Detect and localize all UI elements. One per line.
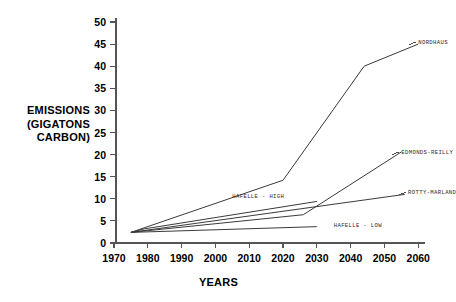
series-label-nordhaus: NORDHAUS: [418, 39, 448, 46]
series-label-hafelle-high: HAFELLE - HIGH: [232, 193, 284, 200]
y-tick-label: 10: [82, 193, 106, 205]
y-tick-label: 15: [82, 171, 106, 183]
y-tick-label: 5: [82, 215, 106, 227]
y-tick-label: 30: [82, 104, 106, 116]
x-axis-title: YEARS: [0, 276, 437, 288]
chart-label-leaders: [392, 42, 416, 195]
label-leader: [409, 42, 416, 45]
y-axis-title-line: (GIGATONS: [2, 118, 90, 132]
y-tick-label: 40: [82, 60, 106, 72]
y-tick-label: 35: [82, 82, 106, 94]
series-label-rotty-marland: ROTTY-MARLAND: [408, 189, 456, 196]
x-tick-label: 2060: [398, 252, 438, 264]
y-axis-title-line: EMISSIONS: [2, 104, 90, 118]
y-tick-label: 50: [82, 16, 106, 28]
series-line-nordhaus: [131, 44, 418, 232]
y-axis-title: EMISSIONS(GIGATONSCARBON): [2, 104, 90, 145]
series-label-hafelle-low: HAFELLE - LOW: [334, 222, 382, 229]
y-tick-label: 45: [82, 38, 106, 50]
y-tick-label: 0: [82, 237, 106, 249]
chart-series-lines: [131, 44, 418, 232]
y-tick-label: 25: [82, 127, 106, 139]
y-axis-title-line: CARBON): [2, 131, 90, 145]
y-tick-label: 20: [82, 149, 106, 161]
series-label-edmonds-reilly: EDMONDS-REILLY: [401, 149, 453, 156]
